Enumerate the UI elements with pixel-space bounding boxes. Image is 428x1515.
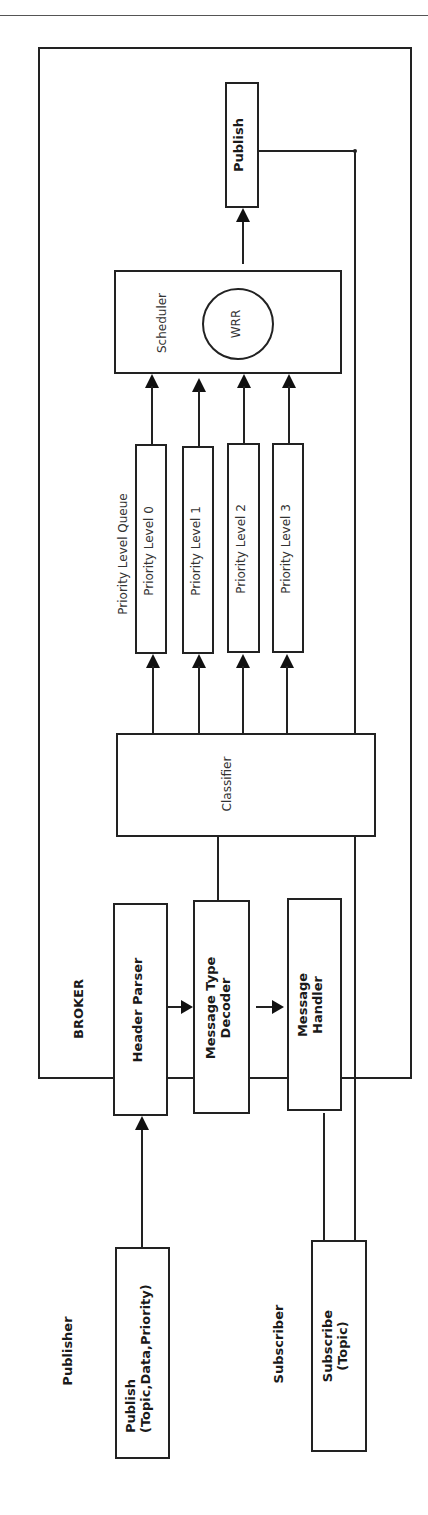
scheduler-label: Scheduler [156, 279, 172, 367]
classifier-to-pl2-line [242, 666, 244, 734]
broker-label: BROKER [72, 974, 90, 1044]
classifier-label: Classifier [221, 744, 237, 824]
scheduler-to-publish-line [242, 222, 244, 264]
classifier-to-pl1-line [198, 666, 200, 734]
publish-input-line1: Publish [123, 1379, 138, 1433]
message-type-decoder-label: Message Type Decoder [204, 948, 240, 1068]
subscriber-label: Subscriber [272, 1299, 290, 1389]
arrow-right-icon [181, 1000, 193, 1014]
priority-level-0-label: Priority Level 0 [143, 496, 159, 606]
priority-level-2-label: Priority Level 2 [235, 494, 251, 604]
message-handler-label: Message Handler [296, 965, 332, 1045]
priority-level-3-label: Priority Level 3 [280, 494, 296, 604]
publish-to-subscriber-h [259, 150, 355, 152]
subscribe-line1: Subscribe [320, 1310, 335, 1382]
page-top-rule [0, 15, 428, 16]
priority-queue-label: Priority Level Queue [117, 484, 133, 624]
pl3-to-scheduler-line [288, 386, 290, 444]
publish-to-subscriber-v [354, 150, 356, 1250]
header-parser-label: Header Parser [131, 950, 149, 1070]
handler-label-line1: Message [295, 973, 310, 1037]
pl1-to-scheduler-line [198, 390, 200, 446]
publisher-label: Publisher [61, 1311, 79, 1391]
handler-label-line2: Handler [310, 976, 325, 1034]
publish-input-line2: (Topic,Data,Priority) [138, 1284, 153, 1433]
arrow-up-icon [236, 208, 250, 222]
decoder-to-classifier-line [217, 835, 219, 903]
parser-to-decoder-line [168, 1006, 182, 1008]
pl0-to-scheduler-line [151, 386, 153, 444]
classifier-box [116, 733, 376, 837]
classifier-to-pl0-line [152, 666, 154, 734]
decoder-label-line2: Decoder [218, 978, 233, 1039]
subscribe-line2: (Topic) [335, 1321, 350, 1370]
priority-level-1-label: Priority Level 1 [190, 496, 206, 606]
subscribe-label: Subscribe (Topic) [321, 1304, 357, 1388]
arrow-up-icon [135, 1116, 149, 1130]
publish-input-label: Publish (Topic,Data,Priority) [124, 1273, 160, 1433]
publish-output-label: Publish [232, 105, 252, 185]
decoder-label-line1: Message Type [203, 957, 218, 1060]
pl2-to-scheduler-line [243, 386, 245, 444]
handler-to-subscribe-line [323, 1113, 325, 1253]
classifier-to-pl3-line [286, 666, 288, 734]
arrow-right-icon [272, 1000, 284, 1014]
publisher-to-parser-line [141, 1130, 143, 1248]
wrr-label: WRR [230, 304, 246, 344]
